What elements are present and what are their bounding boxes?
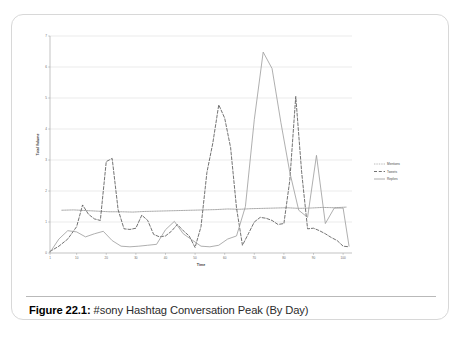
series-line-mentions [62,207,346,212]
x-tick-label: 20 [105,256,109,260]
y-tick-label: 0 [45,251,47,255]
x-axis-title: Time [197,263,205,267]
x-tick-label: 1 [49,256,51,260]
x-tick-label: 30 [134,256,138,260]
x-tick-label: 80 [282,256,286,260]
y-tick-label: 6 [45,65,47,69]
x-tick-label: 10 [75,256,79,260]
x-tick-label: 60 [223,256,227,260]
x-tick-label: 90 [312,256,316,260]
legend-label-mentions: Mentions [387,162,400,166]
x-tick-label: 40 [164,256,168,260]
legend-label-replies: Replies [387,177,398,181]
figure-caption: Figure 22.1: #sony Hashtag Conversation … [29,304,435,316]
x-tick-label: 70 [253,256,257,260]
line-chart-svg: 012345671102030405060708090100TimeTotal … [22,24,440,284]
y-tick-label: 1 [45,220,47,224]
x-tick-label: 50 [193,256,197,260]
y-tick-label: 3 [45,158,47,162]
y-tick-label: 7 [45,34,47,38]
figure-caption-text: #sony Hashtag Conversation Peak (By Day) [91,304,309,316]
series-line-replies [50,52,349,252]
legend-label-tweets: Tweets [387,170,398,174]
y-axis-title: Total Volume [36,133,40,155]
figure-card: 012345671102030405060708090100TimeTotal … [11,14,449,320]
y-tick-label: 5 [45,96,47,100]
x-tick-label: 100 [341,256,346,260]
caption-divider [26,296,436,297]
chart-plot-area: 012345671102030405060708090100TimeTotal … [22,24,440,284]
y-tick-label: 2 [45,189,47,193]
figure-number: Figure 22.1: [29,304,91,316]
y-tick-label: 4 [45,127,47,131]
series-line-tweets [50,96,349,251]
